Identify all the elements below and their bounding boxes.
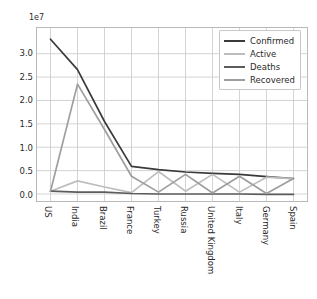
legend-color-swatch bbox=[224, 66, 245, 68]
legend-item: Active bbox=[224, 47, 295, 60]
x-tick-label: India bbox=[70, 206, 80, 227]
x-tick-label: Italy bbox=[234, 206, 244, 224]
legend-label: Confirmed bbox=[250, 36, 294, 46]
x-tick-label: United Kingdom bbox=[206, 206, 216, 274]
y-axis-offset-text: 1e7 bbox=[29, 13, 44, 22]
y-tick-label: 1.0 bbox=[3, 143, 33, 153]
x-tick-label: Turkey bbox=[152, 206, 162, 234]
y-tick-label: 2.0 bbox=[3, 95, 33, 105]
x-tick-label: Brazil bbox=[98, 206, 108, 230]
y-tick-label: 3.0 bbox=[3, 48, 33, 58]
figure: 1e7 0.00.51.01.52.02.53.0 USIndiaBrazilF… bbox=[0, 0, 317, 299]
legend-item: Recovered bbox=[224, 73, 295, 86]
y-tick-label: 2.5 bbox=[3, 72, 33, 82]
x-axis-tick-labels: USIndiaBrazilFranceTurkeyRussiaUnited Ki… bbox=[36, 203, 308, 299]
y-tick-label: 1.5 bbox=[3, 119, 33, 129]
legend-item: Deaths bbox=[224, 60, 295, 73]
legend-label: Active bbox=[250, 49, 276, 59]
legend-color-swatch bbox=[224, 79, 245, 81]
y-tick-label: 0.5 bbox=[3, 166, 33, 176]
x-tick-label: Germany bbox=[261, 206, 271, 245]
chart-legend: ConfirmedActiveDeathsRecovered bbox=[219, 30, 301, 90]
y-axis-tick-labels: 0.00.51.01.52.02.53.0 bbox=[0, 27, 33, 202]
x-tick-label: France bbox=[125, 206, 135, 234]
legend-label: Recovered bbox=[250, 75, 295, 85]
legend-label: Deaths bbox=[250, 62, 280, 72]
legend-color-swatch bbox=[224, 53, 245, 55]
x-tick-label: Russia bbox=[179, 206, 189, 233]
legend-item: Confirmed bbox=[224, 34, 295, 47]
x-tick-label: US bbox=[43, 206, 53, 218]
y-tick-label: 0.0 bbox=[3, 190, 33, 200]
x-tick-label: Spain bbox=[288, 206, 298, 230]
legend-color-swatch bbox=[224, 40, 245, 42]
